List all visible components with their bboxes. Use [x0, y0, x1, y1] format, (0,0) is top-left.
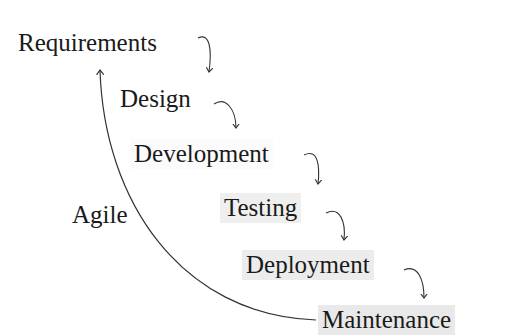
agile-label: Agile [68, 200, 132, 230]
stage-requirements: Requirements [14, 28, 161, 58]
arrow-deployment-maintenance [404, 269, 424, 298]
stage-development: Development [130, 139, 273, 169]
arrow-requirements-design [198, 37, 210, 72]
arrow-development-testing [304, 153, 319, 184]
stage-testing: Testing [220, 193, 301, 223]
stage-maintenance: Maintenance [318, 305, 455, 335]
stage-design: Design [116, 84, 195, 114]
arrow-testing-deployment [326, 211, 344, 240]
stage-deployment: Deployment [242, 250, 374, 280]
arrow-design-development [214, 102, 236, 128]
